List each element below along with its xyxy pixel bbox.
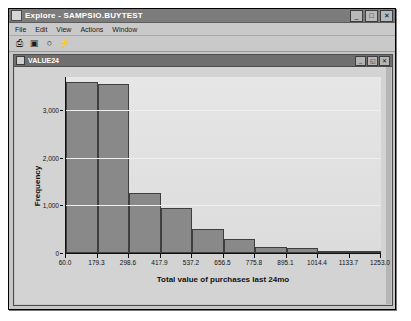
y-tick-label: 3,000 (43, 107, 59, 114)
x-tick-mark (223, 254, 224, 258)
x-tick-mark (160, 254, 161, 258)
print-icon[interactable]: ⎙ (14, 38, 25, 49)
x-tick-label: 60.0 (59, 259, 72, 266)
menu-item-file[interactable]: File (15, 26, 26, 33)
x-tick-mark (191, 254, 192, 258)
y-tick-label: 1,000 (43, 202, 59, 209)
window-title: Explore - SAMPSIO.BUYTEST (25, 11, 350, 20)
menu-item-view[interactable]: View (56, 26, 71, 33)
y-tick-label: 0 (55, 250, 59, 257)
histogram-bar[interactable] (161, 208, 193, 253)
histogram-bar[interactable] (224, 239, 256, 253)
x-tick-mark (128, 254, 129, 258)
x-tick-label: 656.5 (214, 259, 230, 266)
y-tick-mark (60, 110, 63, 111)
menu-item-actions[interactable]: Actions (80, 26, 103, 33)
chart-minimize-button[interactable]: _ (355, 56, 366, 66)
histogram-bar[interactable] (66, 82, 98, 253)
histogram-chart: Frequency 01,0002,0003,000 60.0179.3298.… (15, 67, 391, 304)
chart-icon (16, 56, 25, 65)
window-titlebar[interactable]: Explore - SAMPSIO.BUYTEST _ □ ✕ (9, 9, 395, 23)
x-tick-label: 1133.7 (339, 259, 358, 266)
x-tick-mark (65, 254, 66, 258)
chart-window-controls: _ ◱ ✕ (355, 56, 390, 66)
histogram-bar[interactable] (350, 251, 382, 253)
circle-icon[interactable]: ○ (44, 38, 55, 49)
chart-titlebar[interactable]: VALUE24 _ ◱ ✕ (14, 55, 392, 67)
y-tick-mark (60, 253, 63, 254)
maximize-button[interactable]: □ (365, 10, 378, 22)
x-tick-label: 417.9 (151, 259, 167, 266)
gridline (66, 205, 381, 206)
x-tick-label: 298.6 (120, 259, 136, 266)
app-icon (11, 10, 22, 21)
chart-restore-button[interactable]: ◱ (367, 56, 378, 66)
toolbar: ⎙ ▣ ○ ⚡ (9, 36, 395, 52)
x-tick-mark (254, 254, 255, 258)
lightning-icon[interactable]: ⚡ (59, 38, 70, 49)
window-controls: _ □ ✕ (350, 10, 393, 22)
x-tick-mark (349, 254, 350, 258)
x-tick-label: 1253.0 (370, 259, 390, 266)
histogram-bar[interactable] (287, 248, 319, 253)
plot-frame (65, 77, 381, 254)
explore-window: Explore - SAMPSIO.BUYTEST _ □ ✕ File Edi… (8, 8, 396, 310)
chart-close-button[interactable]: ✕ (379, 56, 390, 66)
x-tick-label: 537.2 (183, 259, 199, 266)
y-tick-mark (60, 205, 63, 206)
histogram-bar[interactable] (98, 84, 130, 253)
gridline (66, 158, 381, 159)
minimize-button[interactable]: _ (350, 10, 363, 22)
y-tick-label: 2,000 (43, 154, 59, 161)
x-tick-mark (286, 254, 287, 258)
x-tick-mark (97, 254, 98, 258)
y-axis-ticks: 01,0002,0003,000 (27, 67, 63, 304)
x-tick-label: 775.8 (246, 259, 262, 266)
save-icon[interactable]: ▣ (29, 38, 40, 49)
x-tick-mark (380, 254, 381, 258)
x-tick-label: 1014.4 (307, 259, 327, 266)
x-axis-title: Total value of purchases last 24mo (65, 275, 381, 284)
x-tick-label: 895.1 (277, 259, 293, 266)
y-tick-mark (60, 158, 63, 159)
x-tick-label: 179.3 (88, 259, 104, 266)
gridline (66, 110, 381, 111)
histogram-bar[interactable] (129, 193, 161, 253)
chart-mdi-window: VALUE24 _ ◱ ✕ Frequency 01,0002,0003,000… (13, 54, 393, 306)
menubar: File Edit View Actions Window (9, 23, 395, 36)
histogram-bar[interactable] (192, 229, 224, 253)
histogram-bar[interactable] (318, 251, 350, 253)
histogram-bar[interactable] (255, 247, 287, 253)
bar-series (66, 77, 381, 253)
chart-window-title: VALUE24 (28, 57, 355, 64)
menu-item-window[interactable]: Window (112, 26, 137, 33)
x-tick-mark (317, 254, 318, 258)
close-button[interactable]: ✕ (380, 10, 393, 22)
menu-item-edit[interactable]: Edit (35, 26, 47, 33)
x-axis-ticks: 60.0179.3298.6417.9537.2656.5775.8895.11… (65, 254, 381, 268)
plot-right-margin (386, 67, 391, 304)
